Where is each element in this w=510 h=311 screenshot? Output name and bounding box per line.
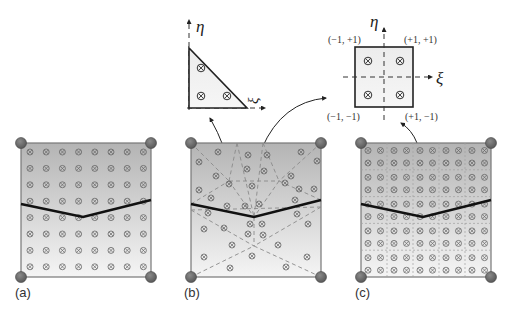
node-icon [356, 138, 367, 149]
node-icon [186, 138, 197, 149]
node-icon [16, 272, 27, 283]
reference-triangle: η ξ [187, 17, 265, 110]
corner-label-bottom-left: (−1, −1) [327, 111, 360, 123]
panel-label-c: (c) [355, 285, 370, 300]
panel-b: (b) [184, 138, 327, 301]
corner-label-top-left: (−1, +1) [328, 34, 361, 46]
node-icon [146, 272, 157, 283]
triangle-shape [189, 48, 247, 108]
node-icon [486, 138, 497, 149]
corner-label-bottom-right: (+1, −1) [405, 111, 438, 123]
eta-label-square: η [370, 12, 378, 31]
node-icon [486, 272, 497, 283]
panel-label-a: (a) [15, 285, 31, 300]
node-icon [186, 272, 197, 283]
panel-c: (c) [355, 138, 497, 301]
node-icon [316, 138, 327, 149]
corner-label-top-right: (+1, +1) [404, 34, 437, 46]
node-icon [356, 272, 367, 283]
element-a [21, 143, 151, 277]
panel-a: (a) [15, 138, 157, 301]
eta-label-triangle: η [196, 17, 204, 36]
node-icon [16, 138, 27, 149]
node-icon [316, 272, 327, 283]
xfem-integration-figure: η ξ η ξ (−1, +1) (+1, +1) (−1, −1) (+1, … [0, 0, 510, 311]
arrow-from-c-to-square [401, 123, 417, 143]
node-icon [146, 138, 157, 149]
panel-label-b: (b) [184, 285, 200, 300]
xi-label-square: ξ [436, 69, 444, 88]
xi-label-triangle: ξ [245, 97, 261, 104]
reference-square: η ξ (−1, +1) (+1, +1) (−1, −1) (+1, −1) [327, 12, 444, 123]
